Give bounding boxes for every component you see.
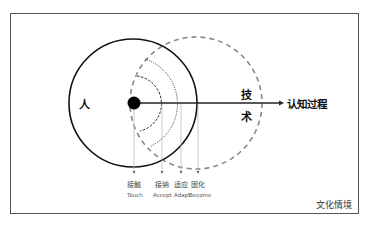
guide-arrow-tips [133, 171, 200, 174]
stage-adapt-en: Adapt [174, 192, 190, 198]
stage-adapt-cn: 适应 [174, 179, 188, 189]
stage-touch-cn: 接触 [127, 179, 141, 189]
cultural-context-label: 文化情境 [316, 198, 352, 211]
stage-accept-en: Accept [153, 192, 172, 198]
stage-become-en: Become [189, 192, 211, 198]
cognition-axis-arrowhead [279, 101, 284, 106]
stage-accept-cn: 接纳 [155, 179, 169, 189]
cognition-process-label: 认知过程 [287, 96, 327, 111]
stage-become-cn: 固化 [191, 179, 205, 189]
person-dot [128, 97, 141, 110]
technology-label-2: 术 [241, 108, 252, 124]
technology-label-1: 技 [241, 86, 252, 102]
person-label: 人 [79, 96, 90, 112]
stage-touch-en: Touch [127, 192, 143, 198]
